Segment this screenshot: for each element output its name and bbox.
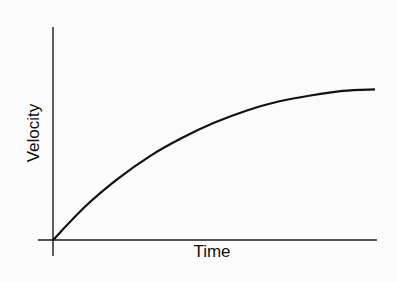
x-axis-label: Time [182, 242, 242, 262]
y-axis-label: Velocity [24, 104, 44, 163]
velocity-time-chart [0, 0, 397, 282]
velocity-curve [53, 89, 375, 240]
